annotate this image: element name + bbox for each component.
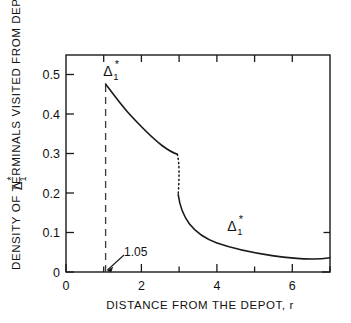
x-tick-label-6: 6: [289, 279, 296, 293]
lower-branch-label-subscript: 1: [237, 226, 242, 237]
x-tick-label-4: 4: [213, 279, 220, 293]
upper-branch-label-subscript: 1: [113, 71, 118, 82]
lower-branch-curve: [178, 195, 330, 260]
y-tick-label-0.4: 0.4: [43, 108, 60, 122]
y-axis-symbol-subscript: 1: [18, 176, 28, 181]
chart-svg: 0 2 4 6 0 0.1 0.2 0.3 0.4 0.5 DISTANCE F…: [0, 0, 351, 323]
x-tick-label-0: 0: [63, 279, 70, 293]
x-tick-label-2: 2: [138, 279, 145, 293]
threshold-arrow: [107, 255, 124, 272]
y-tick-label-0.2: 0.2: [43, 187, 60, 201]
x-tick-labels: 0 2 4 6: [63, 279, 296, 293]
y-tick-label-0: 0: [53, 266, 60, 280]
upper-branch-label: Δ 1 *: [103, 58, 120, 82]
y-axis-symbol-superscript: *: [6, 176, 17, 180]
lower-branch-label: Δ 1 *: [227, 213, 244, 237]
upper-branch-label-superscript: *: [115, 58, 120, 70]
transition-jump-curve: [177, 154, 179, 194]
y-tick-label-0.1: 0.1: [43, 226, 60, 240]
y-axis-title: DENSITY OF TERMINALS VISITED FROM DEPOT,: [10, 0, 22, 270]
y-tick-label-0.3: 0.3: [43, 147, 60, 161]
threshold-value-label: 1.05: [124, 245, 148, 259]
y-tick-labels: 0 0.1 0.2 0.3 0.4 0.5: [43, 68, 60, 280]
upper-branch-curve: [106, 84, 178, 154]
x-axis-title: DISTANCE FROM THE DEPOT, r: [106, 299, 294, 311]
y-axis-symbol-delta: Δ: [10, 181, 25, 190]
lower-branch-label-superscript: *: [239, 213, 244, 225]
upper-branch-label-delta: Δ: [103, 63, 112, 79]
figure-container: 0 2 4 6 0 0.1 0.2 0.3 0.4 0.5 DISTANCE F…: [0, 0, 351, 323]
lower-branch-label-delta: Δ: [227, 218, 236, 234]
y-tick-label-0.5: 0.5: [43, 68, 60, 82]
